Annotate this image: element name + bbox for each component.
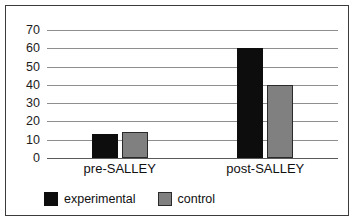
y-axis-tick-label: 10 <box>26 133 40 146</box>
gridline-50 <box>47 67 338 68</box>
y-axis-tick-label: 20 <box>26 115 40 128</box>
gridline-20 <box>47 121 338 122</box>
chart-frame: 706050403020100 pre-SALLEYpost-SALLEY ex… <box>5 5 349 216</box>
gridline-40 <box>47 85 338 86</box>
gridline-0 <box>47 158 338 159</box>
gridline-70 <box>47 30 338 31</box>
y-axis-tick-label: 50 <box>26 60 40 73</box>
y-axis-tick-label: 60 <box>26 42 40 55</box>
y-axis-tick-label: 70 <box>26 24 40 37</box>
gridline-10 <box>47 140 338 141</box>
legend-label-control: control <box>178 193 216 206</box>
category-axis-labels: pre-SALLEYpost-SALLEY <box>47 162 338 182</box>
plot-area: 706050403020100 <box>47 30 338 158</box>
chart-legend: experimentalcontrol <box>44 192 215 206</box>
chart-figure: 706050403020100 pre-SALLEYpost-SALLEY ex… <box>0 0 354 221</box>
y-axis-tick-label: 0 <box>33 152 40 165</box>
y-axis-tick-label: 40 <box>26 79 40 92</box>
bar-experimental-pre-SALLEY <box>92 134 118 158</box>
legend-entry-control: control <box>158 192 216 206</box>
legend-entry-experimental: experimental <box>44 192 136 206</box>
category-label-post-SALLEY: post-SALLEY <box>226 162 304 175</box>
category-label-pre-SALLEY: pre-SALLEY <box>84 162 156 175</box>
bar-experimental-post-SALLEY <box>237 48 263 158</box>
bar-control-pre-SALLEY <box>122 132 148 158</box>
gridline-30 <box>47 103 338 104</box>
bar-control-post-SALLEY <box>267 85 293 158</box>
legend-label-experimental: experimental <box>64 193 136 206</box>
legend-swatch-control <box>158 192 172 206</box>
gridline-60 <box>47 48 338 49</box>
legend-swatch-experimental <box>44 192 58 206</box>
y-axis-tick-label: 30 <box>26 97 40 110</box>
